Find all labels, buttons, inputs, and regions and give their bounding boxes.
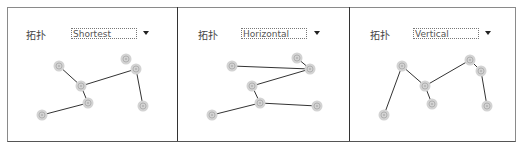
nodes [37, 53, 493, 121]
node-icon [397, 61, 408, 72]
node-icon [227, 61, 238, 72]
node-icon [482, 101, 493, 112]
node-icon [292, 53, 303, 64]
node-icon [138, 101, 149, 112]
node-icon [312, 101, 323, 112]
node-icon [247, 81, 258, 92]
node-icon [54, 61, 65, 72]
node-icon [476, 66, 487, 77]
topology-graphs [0, 0, 521, 151]
node-icon [37, 110, 48, 121]
node-icon [427, 99, 438, 110]
node-icon [131, 64, 142, 75]
node-icon [379, 110, 390, 121]
node-icon [207, 110, 218, 121]
node-icon [76, 81, 87, 92]
node-icon [465, 55, 476, 66]
node-icon [121, 54, 132, 65]
node-icon [83, 98, 94, 109]
node-icon [420, 81, 431, 92]
node-icon [255, 98, 266, 109]
node-icon [305, 64, 316, 75]
